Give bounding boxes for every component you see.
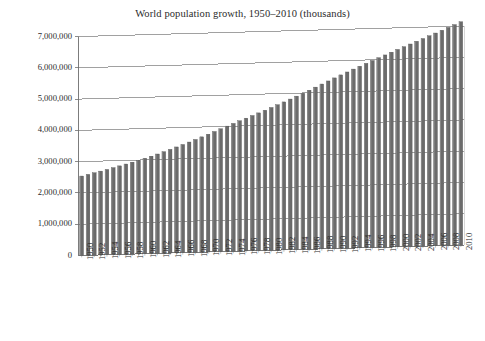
x-axis-tick-label: 1970 <box>211 239 221 256</box>
x-axis-tick-label: 1990 <box>338 236 348 253</box>
x-axis-tick-label: 1978 <box>262 238 272 255</box>
x-axis-tick-label: 1962 <box>161 241 171 258</box>
x-axis-tick-label: 1976 <box>249 238 259 255</box>
x-axis-tick-label: 1954 <box>110 242 120 259</box>
chart-page: World population growth, 1950–2010 (thou… <box>0 0 485 341</box>
x-axis-tick-label: 1964 <box>173 240 183 257</box>
x-axis-tick-label: 1980 <box>274 238 284 255</box>
x-axis-tick-label: 1994 <box>363 235 373 252</box>
x-axis-tick-label: 2006 <box>439 233 449 250</box>
x-axis-tick-label: 1966 <box>186 240 196 257</box>
x-axis-tick-label: 1984 <box>300 237 310 254</box>
x-axis-tick-label: 1996 <box>376 235 386 252</box>
x-axis-tick-label: 1992 <box>350 235 360 252</box>
x-axis-tick-label: 1968 <box>199 240 209 257</box>
x-axis-tick-label: 1972 <box>224 239 234 256</box>
x-axis: 1950195219541956195819601962196419661968… <box>0 0 485 341</box>
x-axis-tick-label: 1956 <box>123 242 133 259</box>
x-axis-tick-label: 1952 <box>97 242 107 259</box>
x-axis-tick-label: 2008 <box>451 233 461 250</box>
x-axis-tick-label: 2002 <box>413 234 423 251</box>
x-axis-tick-label: 2010 <box>464 232 474 249</box>
x-axis-tick-label: 1958 <box>135 241 145 258</box>
x-axis-tick-label: 1988 <box>325 236 335 253</box>
x-axis-tick-label: 1998 <box>388 234 398 251</box>
x-axis-tick-label: 1982 <box>287 237 297 254</box>
x-axis-tick-label: 2000 <box>401 234 411 251</box>
x-axis-tick-label: 2004 <box>426 233 436 250</box>
x-axis-tick-label: 1974 <box>237 239 247 256</box>
x-axis-tick-label: 1960 <box>148 241 158 258</box>
x-axis-tick-label: 1986 <box>312 237 322 254</box>
x-axis-tick-label: 1950 <box>85 243 95 260</box>
